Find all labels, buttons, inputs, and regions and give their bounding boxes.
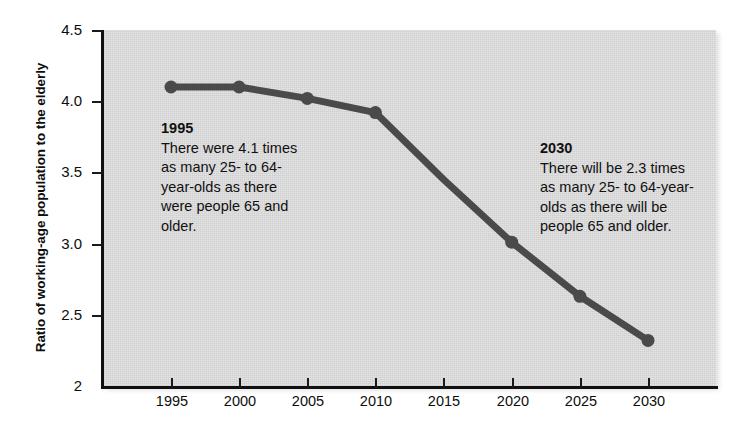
x-axis-tick-label: 1995 [137, 393, 207, 409]
x-axis-tick [239, 378, 241, 388]
annotation-1995: 1995 There were 4.1 times as many 25- to… [161, 119, 311, 236]
annotation-2030: 2030 There will be 2.3 times as many 25-… [540, 139, 700, 237]
y-axis-tick-label: 3.5 [22, 163, 82, 180]
annotation-1995-body: There were 4.1 times as many 25- to 64-y… [161, 139, 311, 237]
x-axis-tick [375, 378, 377, 388]
y-axis-tick [92, 172, 103, 174]
x-axis-tick-label: 2005 [273, 393, 343, 409]
x-axis-tick-label: 2030 [614, 393, 684, 409]
x-axis-tick-label: 2020 [478, 393, 548, 409]
y-axis-tick [92, 30, 103, 32]
y-axis-tick-label: 4.0 [22, 92, 82, 109]
x-axis-tick [580, 378, 582, 388]
chart-figure: Ratio of working-age population to the e… [0, 0, 739, 432]
x-axis-tick-label: 2010 [341, 393, 411, 409]
y-axis-tick [92, 101, 103, 103]
y-axis-line [101, 30, 104, 389]
y-axis-tick-label: 4.5 [22, 21, 82, 38]
x-axis-tick [512, 378, 514, 388]
y-axis-tick-label: 2 [22, 377, 82, 394]
annotation-2030-title: 2030 [540, 139, 700, 159]
x-axis-tick-label: 2025 [546, 393, 616, 409]
x-axis-tick-label: 2015 [409, 393, 479, 409]
y-axis-tick [92, 244, 103, 246]
x-axis-tick [171, 378, 173, 388]
x-axis-tick [307, 378, 309, 388]
y-axis-title: Ratio of working-age population to the e… [33, 8, 48, 408]
y-axis-tick-label: 2.5 [22, 306, 82, 323]
y-axis-tick-label: 3.0 [22, 235, 82, 252]
x-axis-line [101, 386, 718, 389]
x-axis-tick-label: 2000 [205, 393, 275, 409]
annotation-2030-body: There will be 2.3 times as many 25- to 6… [540, 159, 700, 237]
x-axis-tick [648, 378, 650, 388]
x-axis-tick [443, 378, 445, 388]
annotation-1995-title: 1995 [161, 119, 311, 139]
y-axis-tick [92, 315, 103, 317]
